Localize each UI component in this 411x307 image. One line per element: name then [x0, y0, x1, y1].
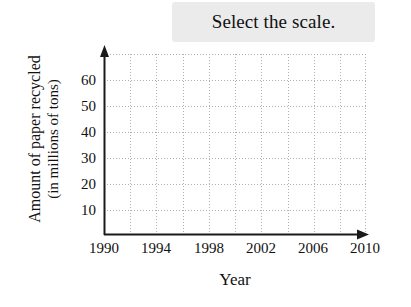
gridline-horizontal [104, 234, 366, 235]
gridline-vertical [104, 54, 105, 235]
x-tick-label-1998: 1998 [182, 241, 236, 256]
gridline-vertical [183, 54, 184, 235]
gridline-vertical [209, 54, 210, 235]
x-axis-title: Year [104, 270, 366, 290]
gridline-vertical [365, 54, 366, 235]
gridline-vertical [314, 54, 315, 235]
y-axis-title: Amount of paper recycled (in millions of… [21, 33, 65, 245]
chart-empty-grid: 60 50 40 30 20 10 1990 1994 1998 2002 20… [0, 0, 411, 307]
y-tick-label-30: 30 [62, 151, 96, 166]
gridline-vertical [130, 54, 131, 235]
plot-area[interactable] [104, 54, 366, 235]
y-tick-label-10: 10 [62, 203, 96, 218]
y-tick-label-60: 60 [62, 73, 96, 88]
y-tick-label-40: 40 [62, 125, 96, 140]
x-tick-label-2006: 2006 [286, 241, 340, 256]
gridline-vertical [340, 54, 341, 235]
x-tick-label-1990: 1990 [77, 241, 131, 256]
gridline-horizontal [104, 54, 366, 55]
y-axis-title-line1: Amount of paper recycled [25, 55, 44, 222]
gridline-vertical [261, 54, 262, 235]
gridline-horizontal [104, 158, 366, 159]
x-tick-label-2002: 2002 [234, 241, 288, 256]
gridline-horizontal [104, 80, 366, 81]
gridline-vertical [156, 54, 157, 235]
y-tick-label-50: 50 [62, 99, 96, 114]
y-axis-title-line2: (in millions of tons) [44, 79, 62, 199]
y-tick-label-20: 20 [62, 177, 96, 192]
gridline-horizontal [104, 132, 366, 133]
gridline-vertical [235, 54, 236, 235]
x-tick-label-1994: 1994 [129, 241, 183, 256]
gridline-horizontal [104, 106, 366, 107]
gridline-vertical [288, 54, 289, 235]
gridline-horizontal [104, 210, 366, 211]
gridline-horizontal [104, 184, 366, 185]
x-tick-label-2010: 2010 [338, 241, 392, 256]
